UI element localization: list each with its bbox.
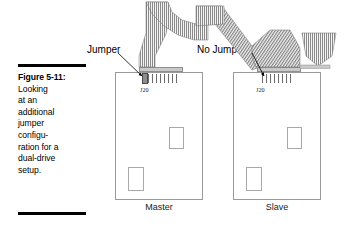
jumper-pin — [290, 74, 291, 83]
drive-label-slave: Slave — [233, 202, 321, 212]
jumper-pin — [282, 74, 283, 83]
jumper-pin — [156, 74, 157, 83]
cable-segment-to-slave — [252, 30, 300, 67]
jumper-pin — [286, 74, 287, 83]
jumper-pin — [148, 74, 149, 83]
jumper-pin-field-master — [148, 74, 177, 83]
caption-line: configu- — [18, 130, 88, 142]
drive-inner-rect — [246, 167, 262, 191]
jumper-pin-field-slave — [262, 74, 291, 83]
caption-line: at an — [18, 95, 88, 107]
jumper-pin — [176, 74, 177, 83]
jumper-pin — [270, 74, 271, 83]
caption-line: setup. — [18, 165, 88, 177]
callout-label-no-jumper: No Jumper — [197, 44, 246, 55]
callout-label-jumper: Jumper — [87, 44, 120, 55]
drive-body-slave — [233, 72, 321, 200]
jumper-pin — [172, 74, 173, 83]
ribbon-cable — [139, 2, 336, 70]
figure-caption-block: Figure 5-11: Looking at an additional ju… — [18, 64, 88, 176]
drive-inner-rect — [128, 167, 144, 191]
figure-caption-text: Figure 5-11: Looking at an additional ju… — [18, 72, 88, 176]
connector-strip-master — [139, 67, 183, 72]
figure-5-11: Figure 5-11: Looking at an additional ju… — [0, 0, 347, 227]
jumper-pin — [152, 74, 153, 83]
jumper-pin — [160, 74, 161, 83]
cable-segment-top-block — [196, 6, 224, 26]
caption-line: ration for a — [18, 142, 88, 154]
jumper-pin — [274, 74, 275, 83]
jumper-pin — [168, 74, 169, 83]
caption-line: additional — [18, 107, 88, 119]
connector-label-slave: J20 — [256, 86, 265, 93]
caption-rule-bottom — [18, 212, 86, 215]
caption-line: dual-drive — [18, 153, 88, 165]
figure-number-label: Figure 5-11: — [18, 72, 88, 84]
cable-segment-fanned-end — [302, 33, 336, 66]
cable-segment-arch — [146, 2, 208, 40]
caption-rule-top — [18, 64, 86, 67]
drive-body-master — [115, 72, 203, 200]
jumper-pin — [266, 74, 267, 83]
caption-line: Looking — [18, 84, 88, 96]
cable-segment-middle-diagonal — [196, 6, 268, 70]
caption-line: jumper — [18, 118, 88, 130]
cable-segment-left-drop — [139, 2, 168, 67]
cable-end-connector-pad — [300, 65, 330, 69]
jumper-block — [142, 73, 148, 84]
connector-label-master: J20 — [140, 86, 149, 93]
drive-inner-rect — [169, 127, 184, 149]
figure-caption-lines: Looking at an additional jumper configu-… — [18, 84, 88, 177]
jumper-pin — [278, 74, 279, 83]
connector-strip-slave — [257, 67, 301, 72]
jumper-pin — [164, 74, 165, 83]
jumper-pin — [262, 74, 263, 83]
drive-inner-rect — [287, 127, 302, 149]
drive-label-master: Master — [115, 202, 203, 212]
